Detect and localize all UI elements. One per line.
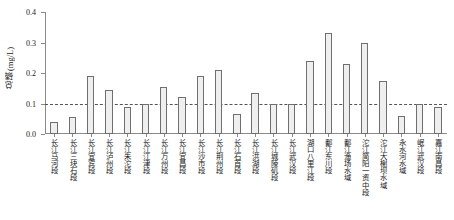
bar-item: [233, 12, 240, 134]
bar: [142, 104, 149, 135]
x-tick-mark: [420, 134, 421, 137]
x-tick-label: 长江武汉段: [288, 138, 295, 174]
x-tick-mark: [91, 134, 92, 137]
plot-area: 0.00.10.20.30.4: [45, 12, 447, 134]
bar-item: [124, 12, 131, 134]
x-tick-mark: [310, 134, 311, 137]
bar-item: [142, 12, 149, 134]
x-tick-label: 鄱江东川段: [325, 138, 332, 174]
x-tick-mark: [347, 134, 348, 137]
y-tick-label: 0.3: [26, 38, 36, 47]
bar: [288, 104, 295, 135]
bar: [251, 93, 258, 134]
bar: [416, 104, 423, 135]
bar: [434, 107, 441, 134]
x-tick-label: 鄱江渔场水域: [343, 138, 350, 181]
x-axis-labels: 长江马河段长江三块石段长江宜宾段长江泸州段长江朱沱段长江江津段长江万州段长江宜昌…: [45, 138, 447, 218]
x-tick-mark: [292, 134, 293, 137]
x-tick-label: 长江洪湖段: [251, 138, 258, 174]
bar: [306, 61, 313, 134]
bar-item: [50, 12, 57, 134]
bar-item: [251, 12, 258, 134]
x-tick-label: 永水河水域: [398, 138, 405, 174]
bar-item: [361, 12, 368, 134]
bar-item: [288, 12, 295, 134]
x-tick-label: 长江石首段: [233, 138, 240, 174]
bar-item: [398, 12, 405, 134]
bar-item: [215, 12, 222, 134]
bar-item: [69, 12, 76, 134]
y-axis-title: 总磷(mg/L): [2, 0, 18, 136]
bar-item: [105, 12, 112, 134]
bar-item: [379, 12, 386, 134]
x-tick-mark: [273, 134, 274, 137]
x-tick-mark: [72, 134, 73, 137]
bar: [270, 104, 277, 135]
bar: [124, 107, 131, 134]
x-tick-label: 长江江津段: [142, 138, 149, 174]
x-tick-mark: [182, 134, 183, 137]
x-tick-label: 长江马河段: [50, 138, 57, 174]
x-tick-mark: [255, 134, 256, 137]
x-tick-mark: [164, 134, 165, 137]
bar: [87, 76, 94, 134]
bar: [69, 117, 76, 134]
y-tick-label: 0.0: [26, 130, 36, 139]
x-tick-mark: [401, 134, 402, 137]
x-tick-mark: [146, 134, 147, 137]
x-tick-label: 长江城陵矶段: [270, 138, 277, 181]
bar: [178, 97, 185, 134]
bar: [50, 122, 57, 134]
x-tick-mark: [219, 134, 220, 137]
bar-series: [45, 12, 447, 134]
x-tick-label: 长江泸州段: [105, 138, 112, 174]
x-tick-label: 长江宜宾段: [87, 138, 94, 174]
x-tick-label: 岷江武汉段: [416, 138, 423, 174]
bar-item: [270, 12, 277, 134]
x-tick-label: 长江三块石段: [69, 138, 76, 181]
bar-item: [160, 12, 167, 134]
bar-item: [416, 12, 423, 134]
bar: [160, 87, 167, 134]
bar: [233, 114, 240, 134]
x-tick-mark: [383, 134, 384, 137]
bar: [325, 33, 332, 134]
bar: [105, 90, 112, 134]
bar: [398, 116, 405, 134]
x-tick-label: 长江朱沱段: [124, 138, 131, 174]
x-tick-mark: [438, 134, 439, 137]
y-tick-label: 0.2: [26, 69, 36, 78]
y-tick-label: 0.4: [26, 8, 36, 17]
x-tick-mark: [127, 134, 128, 137]
y-tick-label: 0.1: [26, 99, 36, 108]
x-tick-mark: [328, 134, 329, 137]
bar-chart: 总磷(mg/L) 0.00.10.20.30.4 长江马河段长江三块石段长江宜宾…: [0, 0, 454, 220]
bar-item: [178, 12, 185, 134]
x-tick-mark: [54, 134, 55, 137]
x-tick-label: 长江宜昌段: [178, 138, 185, 174]
bar: [215, 70, 222, 134]
bar-item: [434, 12, 441, 134]
x-tick-label: 沱江简阳一资中段: [361, 138, 368, 195]
x-tick-label: 嘉江南昌段: [434, 138, 441, 174]
bar-item: [343, 12, 350, 134]
bar: [343, 64, 350, 134]
bar: [361, 43, 368, 135]
y-tick-mark: 0.0: [41, 134, 45, 135]
x-tick-label: 长江沙市段: [197, 138, 204, 174]
x-tick-mark: [200, 134, 201, 137]
bar: [379, 81, 386, 134]
bar-item: [197, 12, 204, 134]
x-tick-mark: [237, 134, 238, 137]
bar-item: [325, 12, 332, 134]
x-tick-label: 沱江大榭坝水域: [379, 138, 386, 188]
bar-item: [306, 12, 313, 134]
x-tick-label: 湖口八里江段: [306, 138, 313, 181]
bar: [197, 76, 204, 134]
x-tick-label: 长江万州段: [160, 138, 167, 174]
x-tick-mark: [365, 134, 366, 137]
bar-item: [87, 12, 94, 134]
x-tick-mark: [109, 134, 110, 137]
x-tick-label: 长江荆州段: [215, 138, 222, 174]
